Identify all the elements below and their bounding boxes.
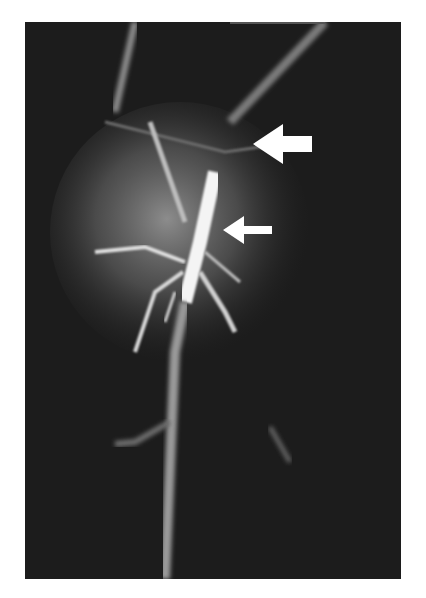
angiogram-drawing [25,22,401,579]
radiograph-image [25,22,401,579]
